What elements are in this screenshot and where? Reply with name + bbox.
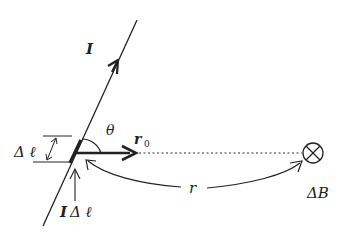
current-element-segment	[70, 140, 81, 163]
r-arc-right	[207, 163, 300, 188]
label-theta: θ	[106, 122, 115, 138]
theta-arc	[82, 139, 101, 153]
field-into-page-icon	[303, 143, 323, 163]
label-current: I	[85, 40, 94, 58]
label-r0-subscript: 0	[144, 139, 150, 149]
label-i-delta-l-i: I	[59, 203, 68, 221]
biot-savart-diagram: I θ r 0 Δ ℓ I Δ ℓ r ΔB	[0, 0, 345, 246]
diagram-canvas: I θ r 0 Δ ℓ I Δ ℓ r ΔB	[0, 0, 345, 246]
label-delta-l: Δ ℓ	[13, 143, 36, 161]
label-r: r	[189, 179, 197, 197]
label-r0: r	[134, 131, 143, 147]
label-i-delta-l-rest: Δ ℓ	[69, 203, 92, 221]
label-delta-b: ΔB	[306, 184, 329, 202]
r-arc-left	[88, 161, 181, 187]
current-arrow-icon	[108, 60, 118, 74]
